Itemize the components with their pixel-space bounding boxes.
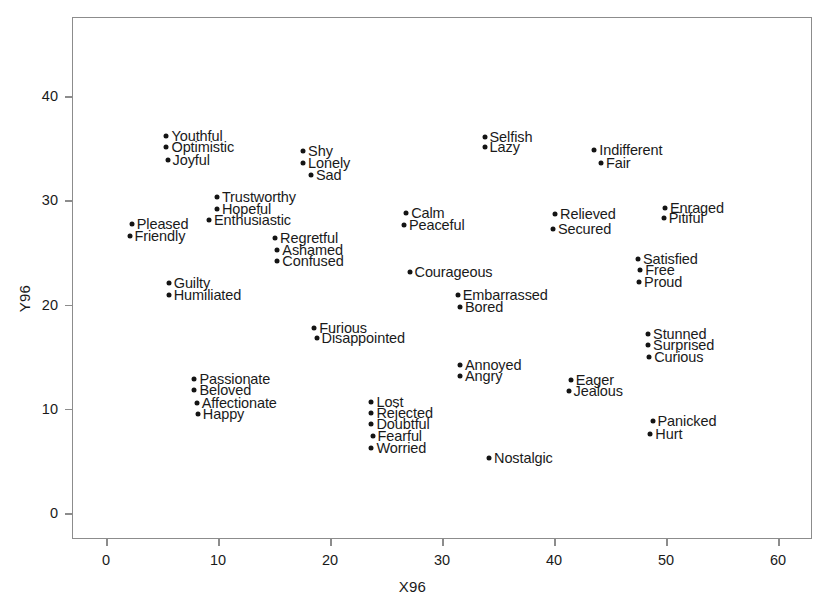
data-point-marker bbox=[164, 133, 169, 138]
data-point-marker bbox=[195, 412, 200, 417]
data-point-marker bbox=[192, 388, 197, 393]
data-point-marker bbox=[482, 145, 487, 150]
data-point-marker bbox=[646, 343, 651, 348]
data-point-marker bbox=[457, 363, 462, 368]
x-tick-mark bbox=[554, 539, 556, 546]
data-point-marker bbox=[662, 205, 667, 210]
scatter-plot-figure: 0102030400102030405060 YouthfulOptimisti… bbox=[0, 0, 825, 611]
data-point-marker bbox=[636, 256, 641, 261]
data-point-label: Peaceful bbox=[409, 217, 465, 233]
data-point-marker bbox=[407, 270, 412, 275]
data-point-label: Friendly bbox=[135, 228, 186, 244]
y-tick-label: 10 bbox=[18, 401, 58, 417]
data-point-label: Enthusiastic bbox=[214, 212, 291, 228]
data-point-marker bbox=[568, 377, 573, 382]
data-point-marker bbox=[457, 374, 462, 379]
data-point-label: Nostalgic bbox=[494, 450, 553, 466]
data-point-marker bbox=[312, 325, 317, 330]
data-point-marker bbox=[599, 160, 604, 165]
data-point-marker bbox=[308, 173, 313, 178]
data-point-marker bbox=[592, 148, 597, 153]
data-point-marker bbox=[164, 145, 169, 150]
data-point-marker bbox=[646, 331, 651, 336]
y-tick-mark bbox=[65, 200, 72, 202]
x-tick-mark bbox=[330, 539, 332, 546]
data-point-marker bbox=[214, 206, 219, 211]
data-point-marker bbox=[455, 293, 460, 298]
data-point-marker bbox=[275, 258, 280, 263]
y-tick-label: 40 bbox=[18, 88, 58, 104]
y-tick-label: 0 bbox=[18, 505, 58, 521]
x-tick-mark bbox=[778, 539, 780, 546]
data-point-marker bbox=[404, 210, 409, 215]
data-point-label: Disappointed bbox=[322, 330, 405, 346]
data-point-marker bbox=[457, 304, 462, 309]
data-point-label: Confused bbox=[282, 253, 343, 269]
data-point-marker bbox=[369, 422, 374, 427]
y-tick-mark bbox=[65, 409, 72, 411]
x-axis-title: X96 bbox=[0, 578, 825, 595]
data-point-label: Jealous bbox=[574, 383, 623, 399]
data-point-marker bbox=[661, 216, 666, 221]
x-tick-mark bbox=[106, 539, 108, 546]
data-point-label: Joyful bbox=[173, 152, 210, 168]
x-tick-label: 10 bbox=[198, 552, 238, 568]
data-point-marker bbox=[194, 400, 199, 405]
data-point-marker bbox=[207, 218, 212, 223]
data-point-label: Relieved bbox=[560, 206, 616, 222]
data-point-marker bbox=[166, 280, 171, 285]
data-point-label: Proud bbox=[644, 274, 682, 290]
data-point-marker bbox=[314, 335, 319, 340]
data-point-marker bbox=[553, 211, 558, 216]
data-point-label: Fair bbox=[606, 155, 631, 171]
data-point-marker bbox=[214, 195, 219, 200]
data-point-label: Bored bbox=[465, 299, 503, 315]
x-tick-label: 0 bbox=[86, 552, 126, 568]
data-point-marker bbox=[550, 226, 555, 231]
data-point-marker bbox=[566, 389, 571, 394]
data-point-marker bbox=[647, 354, 652, 359]
data-point-marker bbox=[650, 419, 655, 424]
data-point-marker bbox=[369, 399, 374, 404]
data-point-marker bbox=[369, 410, 374, 415]
data-point-label: Happy bbox=[203, 406, 244, 422]
data-point-marker bbox=[192, 376, 197, 381]
data-point-marker bbox=[127, 233, 132, 238]
data-point-marker bbox=[638, 268, 643, 273]
data-point-marker bbox=[370, 433, 375, 438]
data-point-marker bbox=[369, 446, 374, 451]
data-point-marker bbox=[273, 235, 278, 240]
data-point-label: Courageous bbox=[415, 264, 493, 280]
y-axis-title: Y96 bbox=[16, 259, 33, 339]
data-point-label: Sad bbox=[316, 167, 342, 183]
data-point-label: Secured bbox=[558, 221, 611, 237]
y-tick-mark bbox=[65, 96, 72, 98]
x-tick-label: 30 bbox=[422, 552, 462, 568]
x-tick-label: 20 bbox=[310, 552, 350, 568]
data-point-marker bbox=[129, 222, 134, 227]
data-point-label: Humiliated bbox=[174, 287, 242, 303]
x-tick-mark bbox=[442, 539, 444, 546]
y-tick-label: 30 bbox=[18, 192, 58, 208]
data-point-label: Worried bbox=[376, 440, 426, 456]
data-point-marker bbox=[166, 293, 171, 298]
data-point-label: Lazy bbox=[490, 139, 520, 155]
data-point-marker bbox=[401, 223, 406, 228]
data-point-marker bbox=[165, 157, 170, 162]
data-point-label: Angry bbox=[465, 368, 502, 384]
data-point-marker bbox=[482, 134, 487, 139]
y-tick-mark bbox=[65, 513, 72, 515]
data-point-label: Curious bbox=[654, 349, 703, 365]
data-point-marker bbox=[275, 248, 280, 253]
data-point-label: Hurt bbox=[655, 426, 682, 442]
data-point-marker bbox=[301, 160, 306, 165]
data-point-marker bbox=[637, 279, 642, 284]
x-tick-mark bbox=[666, 539, 668, 546]
x-tick-mark bbox=[218, 539, 220, 546]
x-tick-label: 40 bbox=[534, 552, 574, 568]
data-point-marker bbox=[301, 149, 306, 154]
x-tick-label: 60 bbox=[758, 552, 798, 568]
y-tick-mark bbox=[65, 305, 72, 307]
data-point-label: Pitiful bbox=[669, 210, 704, 226]
data-point-marker bbox=[648, 431, 653, 436]
